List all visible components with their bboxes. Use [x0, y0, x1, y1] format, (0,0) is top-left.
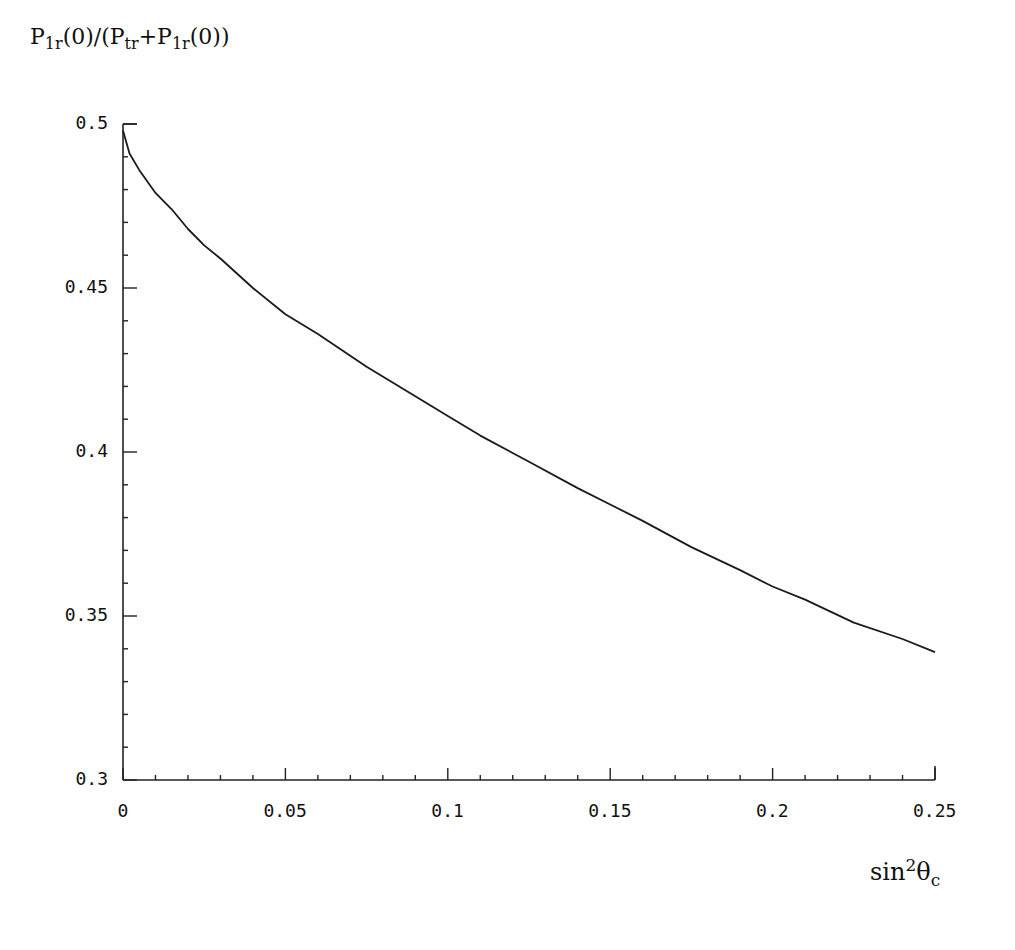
- x-tick-label: 0.15: [588, 800, 631, 821]
- x-tick-label: 0.1: [431, 800, 464, 821]
- y-tick-label: 0.3: [75, 768, 108, 789]
- x-tick-label: 0.2: [756, 800, 789, 821]
- x-tick-label: 0.05: [263, 800, 306, 821]
- y-tick-label: 0.5: [75, 112, 108, 133]
- x-tick-label: 0.25: [913, 800, 956, 821]
- y-tick-label: 0.45: [65, 276, 108, 297]
- y-tick-label: 0.35: [65, 604, 108, 625]
- x-tick-label: 0: [118, 800, 129, 821]
- plot-area: [0, 0, 1015, 950]
- data-curve: [123, 131, 935, 653]
- y-tick-label: 0.4: [75, 440, 108, 461]
